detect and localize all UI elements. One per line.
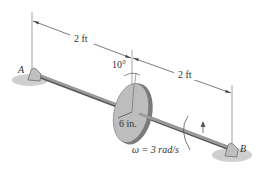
arrowhead-left-start	[33, 21, 39, 25]
arrowhead-right-start	[133, 58, 139, 61]
angle-label: 10°	[112, 59, 126, 70]
dimension-label-left: 2 ft	[74, 33, 88, 44]
omega-label: ω = 3 rad/s	[132, 144, 179, 155]
arrowhead-right-end	[225, 90, 231, 93]
support-a-label: A	[17, 64, 25, 75]
shaft-front	[140, 114, 228, 147]
diagram-canvas: 2 ft 2 ft 10° 6 in. ω = 3 rad/s A B	[0, 0, 260, 176]
radius-label: 6 in.	[119, 118, 137, 129]
dimension-label-right: 2 ft	[178, 69, 192, 80]
rotation-arrowhead	[201, 121, 206, 127]
support-b-label: B	[240, 143, 246, 154]
arrowhead-left-end	[125, 55, 131, 58]
support-a	[28, 68, 41, 81]
